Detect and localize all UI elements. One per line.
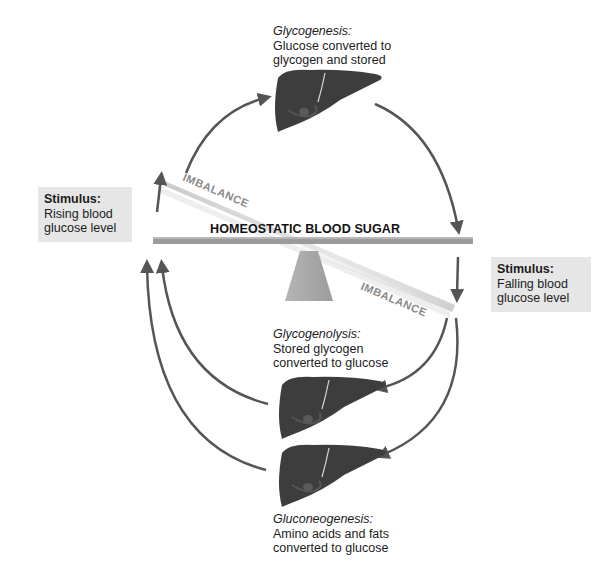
arrow-to-glycogenolysis xyxy=(380,318,447,388)
liver-icon-glycogenesis xyxy=(275,70,382,132)
stimulus-rising-line1: Rising blood xyxy=(44,207,124,222)
label-glycogenolysis: Glycogenolysis: Stored glycogen converte… xyxy=(273,327,388,371)
arrow-to-gluconeogenesis xyxy=(382,318,457,455)
liver-icon-gluconeogenesis xyxy=(279,445,386,507)
stimulus-rising-heading: Stimulus: xyxy=(44,192,124,207)
gluconeogenesis-line2: converted to glucose xyxy=(273,541,389,556)
glycogenolysis-title: Glycogenolysis: xyxy=(273,327,388,342)
liver-icon-glycogenolysis xyxy=(279,377,386,439)
stimulus-falling-line2: glucose level xyxy=(497,291,583,306)
stimulus-falling-heading: Stimulus: xyxy=(497,262,583,277)
arrow-stimulus-falling xyxy=(457,257,458,296)
glycogenolysis-line1: Stored glycogen xyxy=(273,342,388,357)
gluconeogenesis-title: Gluconeogenesis: xyxy=(273,512,389,527)
stimulus-rising-line2: glucose level xyxy=(44,221,124,236)
glycogenesis-title: Glycogenesis: xyxy=(273,24,391,39)
label-gluconeogenesis: Gluconeogenesis: Amino acids and fats co… xyxy=(273,512,389,556)
glycogenesis-line1: Glucose converted to xyxy=(273,39,391,54)
stimulus-rising-box: Stimulus: Rising blood glucose level xyxy=(38,187,132,242)
glycogenesis-line2: glycogen and stored xyxy=(273,53,391,68)
arrow-glycogenolysis-to-balance xyxy=(162,266,268,404)
arrow-to-glycogenesis xyxy=(186,98,265,173)
label-glycogenesis: Glycogenesis: Glucose converted to glyco… xyxy=(273,24,391,68)
arrow-glycogenesis-to-balance xyxy=(375,104,458,228)
arrow-gluconeogenesis-to-balance xyxy=(147,266,266,470)
homeostatic-blood-sugar-label: HOMEOSTATIC BLOOD SUGAR xyxy=(210,222,400,236)
stimulus-falling-line1: Falling blood xyxy=(497,277,583,292)
glycogenolysis-line2: converted to glucose xyxy=(273,356,388,371)
homeostasis-beam xyxy=(153,237,473,244)
stimulus-falling-box: Stimulus: Falling blood glucose level xyxy=(491,257,591,312)
gluconeogenesis-line1: Amino acids and fats xyxy=(273,527,389,542)
